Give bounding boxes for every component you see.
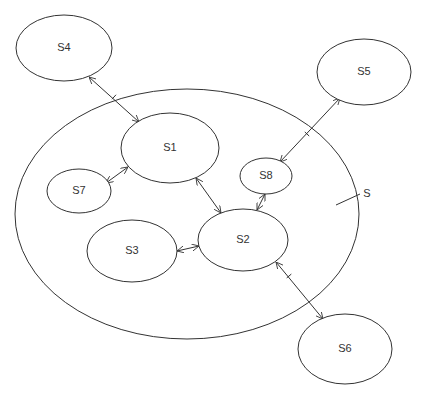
bidirectional-arrow [196, 178, 221, 213]
node-label: S4 [57, 41, 70, 53]
edge-s1-s2 [196, 178, 221, 213]
bidirectional-arrow [257, 194, 265, 210]
node-label: S8 [259, 169, 272, 181]
node-s5[interactable]: S5 [317, 39, 411, 105]
node-s3[interactable]: S3 [87, 220, 177, 282]
node-label: S2 [236, 233, 249, 245]
edge-s4-s1 [89, 77, 139, 122]
node-s6[interactable]: S6 [298, 314, 392, 384]
node-label: S3 [125, 244, 138, 256]
bidirectional-arrow [106, 167, 128, 183]
system-label-leader [336, 194, 360, 205]
bidirectional-arrow [177, 246, 199, 251]
edge-s2-s3 [177, 246, 199, 251]
node-label: S5 [357, 65, 370, 77]
node-s1[interactable]: S1 [121, 113, 219, 183]
edge-s8-s2 [257, 194, 265, 210]
boundary-crossing-mark [112, 95, 116, 99]
node-s7[interactable]: S7 [47, 169, 111, 213]
bidirectional-arrow [89, 77, 139, 122]
edge-s1-s7 [106, 167, 128, 183]
node-s8[interactable]: S8 [240, 158, 292, 194]
bidirectional-arrow [276, 262, 323, 319]
nodes: S1S2S3S4S5S6S7S8 [16, 15, 411, 384]
system-diagram: S S1S2S3S4S5S6S7S8 [0, 0, 424, 394]
edge-s2-s6 [276, 262, 323, 319]
edge-s5-s8 [280, 98, 340, 162]
node-s2[interactable]: S2 [198, 209, 288, 271]
edges [89, 77, 340, 319]
system-label: S [363, 187, 370, 199]
node-label: S7 [72, 184, 85, 196]
node-label: S1 [163, 141, 176, 153]
bidirectional-arrow [280, 98, 340, 162]
node-s4[interactable]: S4 [16, 15, 112, 81]
node-label: S6 [338, 342, 351, 354]
